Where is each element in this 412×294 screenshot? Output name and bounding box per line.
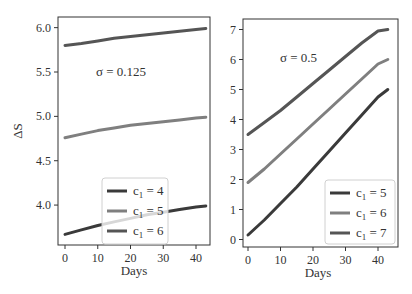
legend-entry: c1 = 6 <box>133 223 164 240</box>
x-tick-label: 40 <box>372 253 384 267</box>
legend: c1 = 4c1 = 5c1 = 6 <box>102 178 168 244</box>
series-line <box>65 29 206 46</box>
legend-entry: c1 = 5 <box>133 203 164 220</box>
sigma-annotation: σ = 0.125 <box>96 64 146 79</box>
series-line <box>65 117 206 138</box>
x-tick-label: 0 <box>62 251 68 265</box>
x-tick-label: 40 <box>190 251 202 265</box>
figure: 0102030404.04.55.05.56.0σ = 0.125DaysΔSc… <box>0 0 412 294</box>
y-tick-label: 1 <box>230 203 236 217</box>
x-axis-label: Days <box>121 263 148 278</box>
x-tick-label: 10 <box>92 251 104 265</box>
x-tick-label: 30 <box>157 251 169 265</box>
y-tick-label: 4 <box>230 113 236 127</box>
legend-entry: c1 = 4 <box>133 183 164 200</box>
x-tick-label: 10 <box>275 253 287 267</box>
legend-entry: c1 = 5 <box>356 185 387 202</box>
legend: c1 = 5c1 = 6c1 = 7 <box>325 180 395 244</box>
legend-entry: c1 = 7 <box>356 225 387 242</box>
y-tick-label: 0 <box>230 233 236 247</box>
y-tick-label: 5.5 <box>36 65 51 79</box>
y-tick-label: 7 <box>230 23 236 37</box>
y-axis-label: ΔS <box>10 123 25 139</box>
y-tick-label: 6 <box>230 53 236 67</box>
x-axis-label: Days <box>305 265 332 280</box>
chart-panel-1: 0102030404.04.55.05.56.0σ = 0.125DaysΔSc… <box>10 17 210 278</box>
y-tick-label: 3 <box>230 143 236 157</box>
legend-entry: c1 = 6 <box>356 205 387 222</box>
y-tick-label: 5.0 <box>36 109 51 123</box>
chart-panel-2: 01020304001234567σ = 0.5Daysc1 = 5c1 = 6… <box>230 19 398 280</box>
y-tick-label: 5 <box>230 83 236 97</box>
y-tick-label: 6.0 <box>36 21 51 35</box>
sigma-annotation: σ = 0.5 <box>280 50 317 65</box>
x-tick-label: 30 <box>340 253 352 267</box>
y-tick-label: 4.0 <box>36 198 51 212</box>
y-tick-label: 4.5 <box>36 154 51 168</box>
y-tick-label: 2 <box>230 173 236 187</box>
x-tick-label: 0 <box>245 253 251 267</box>
